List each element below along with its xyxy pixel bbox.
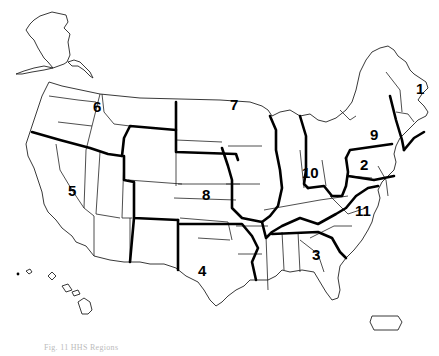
region-label-6: 6	[93, 98, 101, 115]
region-label-10: 10	[302, 164, 319, 181]
region-label-2: 2	[360, 156, 368, 173]
region-label-7: 7	[230, 96, 238, 113]
region-label-1: 1	[416, 80, 424, 97]
region-label-4: 4	[198, 262, 207, 279]
hawaii-shape	[26, 269, 92, 314]
puerto-rico-shape	[370, 316, 402, 330]
alaska-shape	[16, 12, 93, 78]
region-label-8: 8	[202, 186, 210, 203]
region-label-5: 5	[68, 182, 76, 199]
hawaii-niihau	[17, 273, 20, 276]
region-label-9: 9	[370, 126, 378, 143]
region-label-3: 3	[312, 246, 320, 263]
contiguous-us-outline	[26, 46, 428, 306]
figure-caption: Fig. 11 HHS Regions	[44, 343, 118, 352]
us-regions-map: 1 2 3 4 5 6 7 8 9 10 11	[0, 0, 439, 356]
region-label-11: 11	[355, 202, 371, 219]
